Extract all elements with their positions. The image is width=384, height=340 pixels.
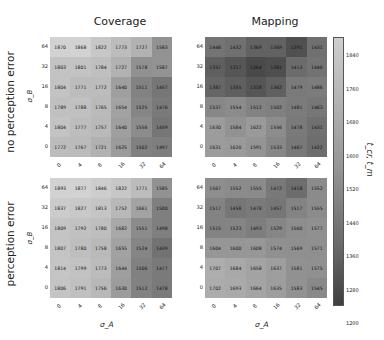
xlabel-right: σ_A [255,320,269,329]
y-tick: 8 [189,103,203,109]
heatmap-cell: 1583 [286,278,306,298]
heatmap-cell: 1529 [266,218,286,238]
heatmap-cell: 1533 [266,137,286,157]
heatmap-cell: 1523 [225,218,245,238]
heatmap-cell: 1506 [131,258,151,278]
heatmap-cell: 1767 [70,137,90,157]
heatmap-cell: 1556 [266,117,286,137]
y-tick: 8 [189,244,203,250]
heatmap-cell: 1472 [266,178,286,198]
y-tick: 8 [34,103,48,109]
heatmap-cell: 1560 [286,218,306,238]
heatmap-cell: 1758 [91,238,111,258]
heatmap-cell: 1577 [307,218,327,238]
heatmap-cell: 1574 [266,238,286,258]
heatmap-cell: 1281 [266,57,286,77]
heatmap-cell: 1773 [111,37,131,57]
heatmap-cell: 1870 [50,37,70,57]
heatmap-cell: 1792 [70,218,90,238]
heatmap-cell: 1804 [50,77,70,97]
heatmap-cell: 1517 [205,198,225,218]
row-title-error: perception error [4,174,16,314]
heatmap-cell: 1481 [286,97,306,117]
heatmap-cell: 1625 [111,137,131,157]
heatmap-cell: 1517 [286,198,306,218]
heatmap-cell: 1567 [205,178,225,198]
heatmap-cell: 1583 [152,37,172,57]
heatmap-cell: 1772 [50,137,70,157]
heatmap-cell: 1777 [70,117,90,137]
colorbar-tick: 1280 [346,287,359,293]
heatmap-cell: 1459 [152,117,172,137]
heatmap-cell: 1773 [91,258,111,278]
heatmap-cell: 1448 [205,37,225,57]
heatmap-cell: 1571 [307,238,327,258]
heatmap-cell: 1789 [50,97,70,117]
heatmap-cell: 1500 [152,198,172,218]
heatmap-cell: 1757 [91,117,111,137]
y-tick: 0 [189,143,203,149]
heatmap-cell: 1581 [286,258,306,278]
x-tick: 16 [117,161,126,170]
heatmap-cell: 1587 [152,57,172,77]
y-tick: 0 [34,143,48,149]
heatmap-cell: 1654 [111,97,131,117]
heatmap-coverage-error: 1893187718461822177115851837182718131752… [50,178,172,298]
heatmap-cell: 1422 [307,137,327,157]
heatmap-cell: 1791 [70,278,90,298]
y-tick: 16 [189,83,203,89]
x-tick: 64 [313,302,322,311]
heatmap-cell: 1707 [205,258,225,278]
heatmap-cell: 1476 [152,97,172,117]
heatmap-cell: 1457 [152,77,172,97]
heatmap-cell: 1682 [111,218,131,238]
heatmap-cell: 1478 [286,117,306,137]
heatmap-cell: 1604 [205,238,225,258]
heatmap-cell: 1431 [307,37,327,57]
x-tick: 16 [272,161,281,170]
heatmap-cell: 1655 [111,238,131,258]
heatmap-cell: 1552 [307,178,327,198]
heatmap-cell: 1362 [266,77,286,97]
heatmap-cell: 1664 [246,278,266,298]
heatmap-cell: 1493 [246,218,266,238]
heatmap-cell: 1727 [111,57,131,77]
x-tick: 0 [56,303,63,310]
col-title-mapping: Mapping [200,15,350,28]
x-tick: 32 [292,161,301,170]
heatmap-cell: 1622 [246,117,266,137]
colorbar-tick: 1360 [346,253,359,259]
y-tick: 64 [34,43,48,49]
heatmap-cell: 1658 [246,258,266,278]
y-tick: 4 [34,123,48,129]
heatmap-cell: 1479 [286,77,306,97]
heatmap-cell: 1458 [225,198,245,218]
heatmap-cell: 1804 [50,117,70,137]
heatmap-cell: 1630 [111,278,131,298]
heatmap-cell: 1537 [205,97,225,117]
heatmap-cell: 1727 [131,37,151,57]
heatmap-cell: 1807 [50,238,70,258]
heatmap-cell: 1524 [131,238,151,258]
heatmap-cell: 1637 [266,258,286,278]
heatmap-cell: 1630 [205,117,225,137]
x-tick: 8 [251,303,258,310]
colorbar [333,37,344,306]
x-tick: 0 [56,162,63,169]
heatmap-cell: 1511 [131,77,151,97]
colorbar-label: t_cr, t_m [365,142,374,176]
x-tick: 32 [137,161,146,170]
heatmap-cell: 1827 [70,198,90,218]
heatmap-cell: 1264 [246,57,266,77]
heatmap-cell: 1801 [70,57,90,77]
heatmap-cell: 1809 [50,218,70,238]
x-tick: 64 [158,302,167,311]
heatmap-cell: 1846 [91,178,111,198]
heatmap-cell: 1554 [225,97,245,117]
y-tick: 0 [34,284,48,290]
heatmap-cell: 1418 [286,178,306,198]
heatmap-cell: 1684 [225,258,245,278]
heatmap-cell: 1497 [152,137,172,157]
heatmap-coverage-no-error: 1870186818221773172715831803180117841727… [50,37,172,157]
heatmap-cell: 1317 [225,57,245,77]
